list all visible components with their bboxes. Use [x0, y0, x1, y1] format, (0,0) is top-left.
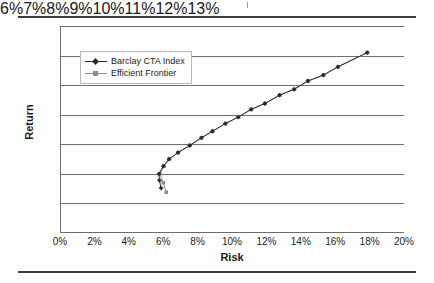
y-tick-label-6: 12% — [155, 0, 187, 17]
legend-label-0: Barclay CTA Index — [111, 57, 185, 66]
legend-marker-square-icon — [85, 69, 107, 78]
data-point-0-0 — [159, 186, 164, 191]
y-tick-label-1: 7% — [23, 0, 46, 17]
legend-item-efficient-frontier: Efficient Frontier — [85, 68, 185, 79]
y-tick-label-4: 10% — [93, 0, 125, 17]
data-point-1-1 — [162, 181, 166, 185]
y-tick-label-7: 13% — [187, 0, 219, 17]
y-tick-label-5: 11% — [125, 0, 156, 17]
gridline-y-0 — [61, 233, 404, 234]
x-tick-label-10: 20% — [382, 236, 426, 247]
y-tick-label-3: 9% — [69, 0, 92, 17]
figure-container: 6%7%8%9%10%11%12%13% 0%2%4%6%8%10%12%14%… — [0, 0, 434, 283]
legend-label-1: Efficient Frontier — [111, 69, 176, 78]
y-tick-label-0: 6% — [0, 0, 23, 17]
legend-marker-diamond-icon — [85, 57, 107, 66]
legend-item-barclay-cta-index: Barclay CTA Index — [85, 56, 185, 67]
chart-legend: Barclay CTA Index Efficient Frontier — [80, 51, 192, 84]
y-axis-title: Return — [23, 87, 35, 157]
x-axis-title: Risk — [60, 251, 404, 263]
data-point-1-0 — [164, 190, 168, 194]
y-tick-label-2: 8% — [46, 0, 69, 17]
data-point-0-1 — [157, 178, 162, 183]
